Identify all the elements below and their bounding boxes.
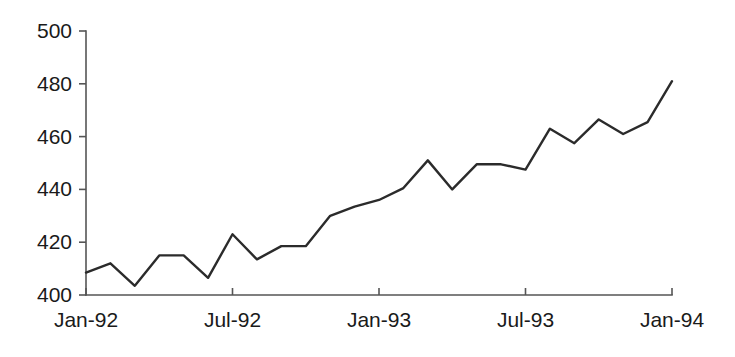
y-axis: 400420440460480500 — [37, 19, 86, 306]
y-axis-ticks — [79, 31, 86, 295]
x-axis-tick-label: Jan-93 — [347, 308, 411, 331]
chart-canvas: 400420440460480500 Jan-92Jul-92Jan-93Jul… — [0, 0, 735, 357]
x-axis-tick-label: Jan-92 — [54, 308, 118, 331]
y-axis-tick-label: 440 — [37, 177, 72, 200]
y-axis-tick-label: 500 — [37, 19, 72, 42]
y-axis-tick-labels: 400420440460480500 — [37, 19, 72, 306]
y-axis-tick-label: 480 — [37, 72, 72, 95]
x-axis-ticks — [86, 288, 672, 295]
x-axis-tick-label: Jan-94 — [640, 308, 705, 331]
data-series-line — [86, 81, 672, 286]
x-axis-tick-label: Jul-93 — [497, 308, 554, 331]
y-axis-tick-label: 400 — [37, 283, 72, 306]
line-chart: 400420440460480500 Jan-92Jul-92Jan-93Jul… — [0, 0, 735, 357]
x-axis-tick-labels: Jan-92Jul-92Jan-93Jul-93Jan-94 — [54, 308, 705, 331]
x-axis: Jan-92Jul-92Jan-93Jul-93Jan-94 — [54, 288, 705, 331]
y-axis-tick-label: 460 — [37, 125, 72, 148]
y-axis-tick-label: 420 — [37, 230, 72, 253]
x-axis-tick-label: Jul-92 — [204, 308, 261, 331]
